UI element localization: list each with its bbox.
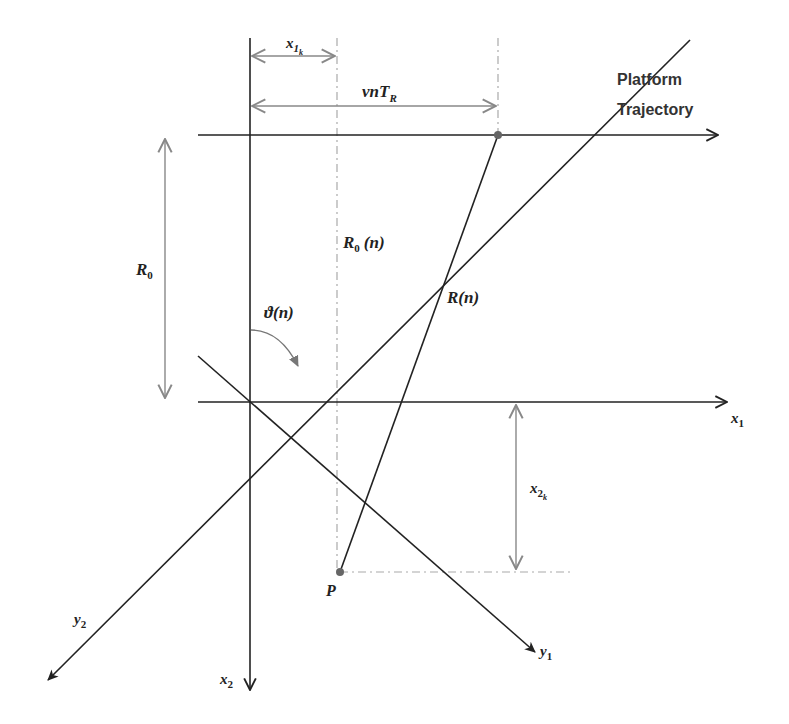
x1k-label: x1k: [285, 35, 303, 57]
dimension-arrows: [165, 56, 516, 569]
platform-position-point: [494, 131, 502, 139]
y1-axis-line: [198, 356, 535, 652]
r0n-label: R0(n): [342, 233, 385, 254]
sar-geometry-diagram: x1k vnTR Platform Trajectory R0 R0(n) R(…: [0, 0, 789, 724]
x2k-label: x2k: [529, 480, 547, 502]
y1-axis-label: y1: [538, 643, 552, 662]
r0-label: R0: [135, 260, 153, 281]
y2-axis-label: y2: [72, 611, 87, 630]
y2-axis-line: [48, 40, 690, 680]
range-line-r-n: [340, 135, 498, 572]
theta-angle-arc: [251, 330, 298, 366]
target-point-p: [336, 568, 344, 576]
x2-axis-label: x2: [219, 671, 234, 690]
platform-trajectory-label-line2: Trajectory: [617, 101, 694, 118]
labels: x1k vnTR Platform Trajectory R0 R0(n) R(…: [72, 35, 744, 690]
x1-axis-label: x1: [730, 410, 744, 429]
theta-n-label: ϑ(n): [264, 303, 294, 322]
rn-label: R(n): [446, 288, 479, 307]
vntr-label: vnTR: [362, 82, 397, 104]
platform-trajectory-label-line1: Platform: [617, 71, 682, 88]
p-label: P: [325, 582, 336, 599]
axes: [48, 38, 727, 690]
